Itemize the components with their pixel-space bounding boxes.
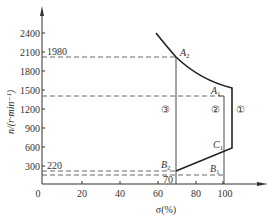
region-marker-1: ① [236, 104, 245, 115]
label-1980: 1980 [47, 46, 67, 57]
x-axis-label: σ(%) [156, 204, 176, 216]
y-tick-labels: 300 600 900 1200 1500 1800 2100 2400 [20, 28, 40, 172]
x-axis-arrow-icon [257, 182, 268, 186]
point-label-b1: B1 [210, 163, 220, 176]
dashed-guides [42, 57, 224, 175]
y-tick-2400: 2400 [20, 28, 40, 39]
x-tick-20: 20 [77, 188, 87, 199]
point-label-c1: C1 [213, 139, 224, 152]
region-marker-2: ② [211, 104, 220, 115]
sigma-n-diagram: 300 600 900 1200 1500 1800 2100 2400 0 2… [0, 0, 272, 219]
y-axis-arrow-icon [40, 6, 44, 16]
x-tick-60: 60 [153, 188, 163, 199]
label-70: 70 [163, 174, 173, 185]
label-220: 220 [47, 160, 62, 171]
y-tick-1200: 1200 [20, 104, 40, 115]
y-tick-1800: 1800 [20, 66, 40, 77]
x-tick-80: 80 [191, 188, 201, 199]
region-marker-3: ③ [161, 104, 170, 115]
x-tick-labels: 0 20 40 60 80 100 [36, 188, 233, 199]
x-tick-40: 40 [115, 188, 125, 199]
y-axis-label: n/(r·min⁻¹) [5, 89, 17, 134]
x-tick-100: 100 [218, 188, 233, 199]
y-tick-300: 300 [25, 161, 40, 172]
point-label-a2: A2 [179, 47, 190, 60]
y-tick-2100: 2100 [20, 47, 40, 58]
y-tick-900: 900 [25, 123, 40, 134]
point-label-b2: B2 [161, 159, 171, 172]
y-tick-1500: 1500 [20, 85, 40, 96]
y-tick-600: 600 [25, 142, 40, 153]
x-tick-0: 0 [36, 188, 41, 199]
